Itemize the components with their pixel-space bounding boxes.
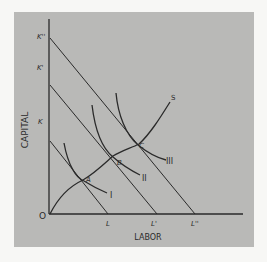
- isocost-line-K2L2: [50, 38, 195, 214]
- isoquant-III-label: III: [166, 157, 173, 166]
- origin-label: O: [39, 211, 46, 221]
- labor-axis-label: LABOR: [134, 233, 162, 242]
- label-L-prime: L': [151, 220, 157, 228]
- isoquant-I-label: I: [110, 191, 112, 200]
- label-L: L: [106, 220, 110, 228]
- label-K: K: [38, 118, 44, 126]
- point-C-label: C: [139, 142, 144, 150]
- label-K-prime: K': [37, 64, 44, 72]
- isoquant-II-label: II: [142, 174, 147, 183]
- capital-axis-label: CAPITAL: [20, 112, 30, 149]
- label-K-double-prime: K'': [37, 33, 46, 41]
- expansion-path-label: S: [171, 94, 176, 102]
- point-A-label: A: [85, 176, 91, 184]
- label-L-double-prime: L'': [191, 220, 199, 228]
- point-B-label: B: [117, 159, 122, 167]
- isoquant-diagram: CAPITAL LABOR O K K' K'' L L' L'' A B C …: [0, 0, 267, 262]
